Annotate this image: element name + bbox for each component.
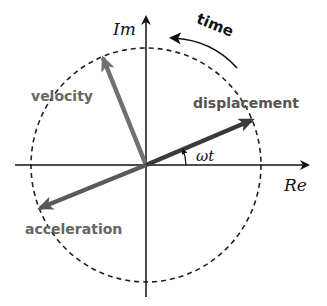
acceleration-label: acceleration [25, 221, 122, 237]
time-arrow-icon [173, 38, 237, 68]
velocity-label: velocity [31, 88, 93, 104]
imag-axis-label: Im [112, 19, 136, 39]
displacement-label: displacement [193, 95, 299, 111]
real-axis-label: Re [283, 175, 307, 195]
acceleration-phasor [40, 165, 146, 208]
time-label: time [194, 10, 236, 41]
phasor-diagram: Im Re time ωt velocity displacement acce… [0, 0, 327, 306]
angle-label: ωt [196, 147, 215, 165]
velocity-phasor [103, 58, 146, 165]
angle-arc [183, 150, 186, 165]
